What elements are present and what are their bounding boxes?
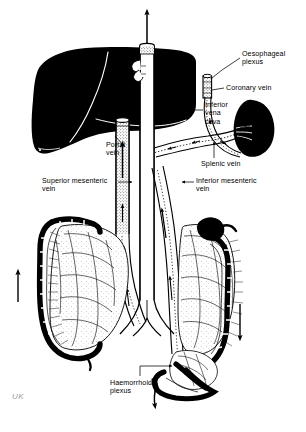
portal-venous-system-diagram: Oesophageal plexus Coronary vein Inferio… (0, 0, 306, 432)
label-oesophageal-plexus: Oesophageal plexus (242, 50, 285, 67)
label-portal-vein: Portal vein (106, 141, 125, 158)
artist-signature: UK (12, 392, 24, 401)
label-splenic-vein: Splenic vein (201, 160, 240, 168)
oesophagus-and-plexus (203, 74, 212, 98)
label-haemorrhoid-plexus: Haemorrhoid plexus (110, 379, 152, 396)
label-inferior-vena-cava: Inferior vena cava (205, 101, 228, 126)
label-superior-mesenteric-vein: Superior mesenteric vein (42, 177, 107, 194)
label-coronary-vein: Coronary vein (226, 84, 271, 92)
label-inferior-mesenteric-vein: Inferior mesenteric vein (196, 177, 257, 194)
